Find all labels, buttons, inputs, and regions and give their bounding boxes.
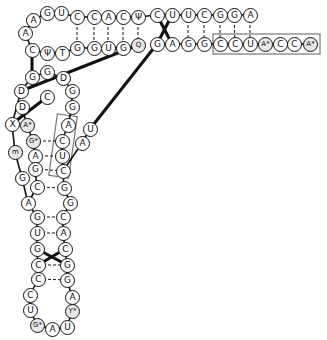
- nucleotide-n12: C: [197, 8, 212, 23]
- nucleotide-b9: C: [273, 37, 288, 52]
- nucleotide-d18: U: [55, 149, 70, 164]
- nucleotide-l7: U: [101, 41, 116, 56]
- nucleotide-d11: A: [61, 118, 76, 133]
- nucleotide-a8: C: [58, 242, 73, 257]
- nucleotide-a2: G: [63, 196, 78, 211]
- nucleotide-a15: U: [23, 303, 38, 318]
- nucleotide-d4: D: [14, 84, 29, 99]
- nucleotide-n13: G: [213, 8, 228, 23]
- nucleotide-a14: A: [65, 290, 80, 305]
- nucleotide-n9: C: [150, 8, 165, 23]
- nucleotide-n3: U: [54, 6, 69, 21]
- nucleotide-n8: Ψ: [131, 10, 146, 25]
- nucleotide-d8: G: [65, 100, 80, 115]
- nucleotide-n15: A: [243, 8, 258, 23]
- tertiary-interaction-line: [90, 44, 157, 129]
- nucleotide-b4: G: [197, 37, 212, 52]
- nucleotide-a10: G: [60, 258, 75, 273]
- nucleotide-a9: C: [31, 258, 46, 273]
- nucleotide-d20: C: [56, 164, 71, 179]
- nucleotide-d21: G: [15, 171, 30, 186]
- nucleotide-d1: G: [25, 70, 40, 85]
- nucleotide-d9: X: [5, 117, 20, 132]
- nucleotide-n4: C: [70, 10, 85, 25]
- nucleotide-l9: Q: [131, 38, 146, 53]
- nucleotide-n10: U: [165, 8, 180, 23]
- nucleotide-d15: A: [75, 136, 90, 151]
- nucleotide-d5: C: [40, 90, 55, 105]
- nucleotide-a7: G: [30, 242, 45, 257]
- nucleotide-b1: G: [150, 37, 165, 52]
- nucleotide-d13: G*: [26, 134, 41, 149]
- nucleotide-d2: G: [40, 65, 55, 80]
- nucleotide-a5: U: [30, 226, 45, 241]
- nucleotide-a13: C: [23, 288, 38, 303]
- nucleotide-l4: T: [55, 46, 70, 61]
- nucleotide-b11: A*: [303, 37, 318, 52]
- nucleotide-a1: A: [21, 196, 36, 211]
- nucleotide-d14: C: [55, 134, 70, 149]
- nucleotide-n6: A: [101, 10, 116, 25]
- nucleotide-a12: G: [60, 273, 75, 288]
- nucleotide-n7: C: [116, 10, 131, 25]
- nucleotide-d10: A*: [20, 118, 35, 133]
- nucleotide-d12: U: [83, 122, 98, 137]
- nucleotide-n14: G: [227, 8, 242, 23]
- nucleotide-d7: D: [15, 100, 30, 115]
- nucleotide-a16: Y*: [65, 304, 80, 319]
- nucleotide-l5: G: [70, 41, 85, 56]
- nucleotide-b2: A: [165, 37, 180, 52]
- nucleotide-a4: C: [56, 210, 71, 225]
- nucleotide-l6: G: [87, 41, 102, 56]
- nucleotide-l2: C: [25, 43, 40, 58]
- nucleotide-d19: G: [28, 162, 43, 177]
- nucleotide-b7: U: [243, 37, 258, 52]
- nucleotide-b5: C: [213, 37, 228, 52]
- nucleotide-a18: A: [45, 322, 60, 337]
- nucleotide-d23: G: [57, 181, 72, 196]
- nucleotide-n5: C: [87, 10, 102, 25]
- nucleotide-n2: G: [40, 6, 55, 21]
- nucleotide-d22: C: [30, 180, 45, 195]
- nucleotide-b8: A*: [258, 37, 273, 52]
- nucleotide-l3: Ψ: [40, 46, 55, 61]
- nucleotide-a17: G*: [30, 318, 45, 333]
- nucleotide-n11: U: [181, 8, 196, 23]
- nucleotide-d16: m: [8, 145, 23, 160]
- nucleotide-b6: C: [228, 37, 243, 52]
- nucleotide-a11: C: [31, 272, 46, 287]
- nucleotide-b10: C: [287, 37, 302, 52]
- nucleotide-l8: G: [116, 41, 131, 56]
- nucleotide-a3: G: [30, 210, 45, 225]
- nucleotide-a19: U: [60, 320, 75, 335]
- nucleotide-b3: G: [181, 37, 196, 52]
- trna-diagram: AGUCCACΨCUUCGGAGAGGCCUA*CCA*ACΨTGGUGQGGD…: [0, 0, 327, 340]
- nucleotide-l1: A: [18, 26, 33, 41]
- nucleotide-a6: A: [56, 226, 71, 241]
- nucleotide-d6: G: [65, 84, 80, 99]
